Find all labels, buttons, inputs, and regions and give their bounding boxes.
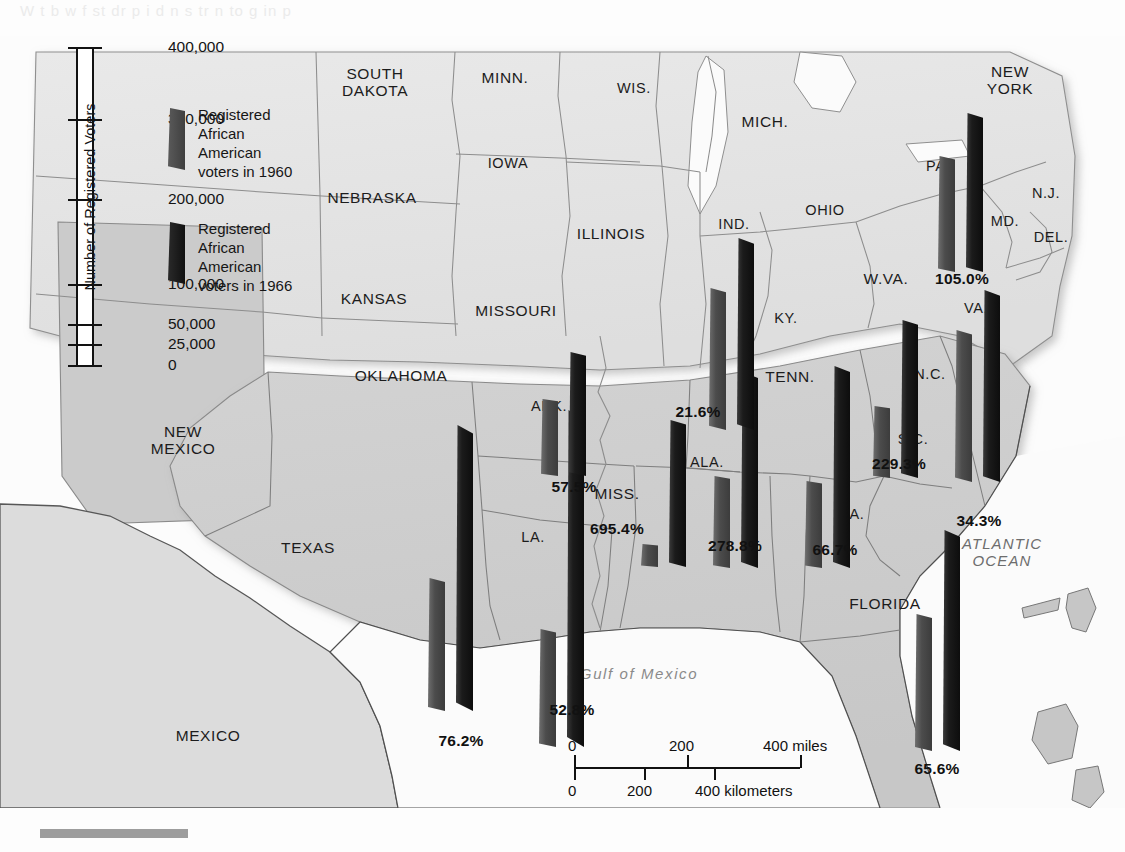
map-label-minn: MINN. [482, 69, 529, 86]
percent-label-miss: 695.4% [590, 520, 644, 537]
axis-tick-label-6: 0 [168, 356, 177, 374]
bar-fill [833, 366, 850, 568]
bar-miss-1966 [669, 420, 686, 567]
bar-ark-1960 [541, 399, 558, 476]
bar-texas-1960 [428, 578, 445, 711]
axis-tick-100000 [68, 284, 102, 286]
percent-label-texas: 76.2% [439, 732, 484, 749]
bar-fill [938, 156, 955, 272]
bar-miss-1960 [641, 544, 658, 567]
bar-fill [428, 578, 445, 711]
scale-tick-km-400 [714, 767, 716, 780]
bar-fill [669, 420, 686, 567]
bar-texas-1966 [456, 425, 473, 711]
map-label-oklahoma: OKLAHOMA [355, 367, 448, 384]
scale-tick-miles-200 [687, 755, 689, 768]
axis-tick-0 [68, 365, 102, 367]
axis-title: Number of Registered Voters [82, 104, 98, 291]
map-label-kansas: KANSAS [341, 290, 408, 307]
axis-tick-300000 [68, 119, 102, 121]
map-label-ind: IND. [718, 216, 749, 232]
bar-fill [943, 530, 960, 751]
map-label-nebraska: NEBRASKA [327, 189, 416, 206]
scale-label-miles-200: 200 [669, 737, 694, 754]
map-label-md: MD. [991, 213, 1019, 229]
scale-tick-km-0 [574, 767, 576, 780]
map-label-ky: KY. [774, 310, 797, 326]
axis-tick-label-5: 25,000 [168, 335, 215, 353]
bar-fill [737, 238, 754, 430]
percent-label-nc: 34.3% [957, 512, 1002, 529]
map-label-ala: ALA. [690, 454, 724, 470]
bar-fill [966, 113, 983, 272]
map-figure: W t b w f st dr p i d n s tr n to g in p [0, 0, 1125, 852]
voter-scale-axis: Number of Registered Voters 400,000300,0… [62, 47, 106, 367]
map-label-new-york: NEW YORK [987, 63, 1033, 98]
map-label-w-va: W.VA. [864, 270, 909, 287]
footer-rule [40, 829, 188, 838]
map-label-del: DEL. [1034, 229, 1069, 245]
scale-label-km-200: 200 [627, 782, 652, 799]
bar-florida-1960 [915, 614, 932, 751]
map-label-la: LA. [521, 529, 545, 545]
percent-label-florida: 65.6% [915, 760, 960, 777]
bar-fill [915, 614, 932, 751]
scale-tick-km-200 [644, 767, 646, 780]
bar-sc-1966 [901, 320, 918, 478]
percent-label-va: 105.0% [935, 270, 989, 287]
legend-swatch-1960 [168, 108, 185, 170]
bar-fill [901, 320, 918, 478]
bar-fill [456, 425, 473, 711]
axis-tick-50000 [68, 324, 102, 326]
percent-label-tenn: 21.6% [676, 403, 721, 420]
map-label-n-j: N.J. [1032, 185, 1060, 201]
bar-la-1960 [539, 629, 556, 747]
map-label-gulf-of-mexico: Gulf of Mexico [580, 666, 698, 683]
axis-tick-label-4: 50,000 [168, 315, 215, 333]
scale-label-km-400: 400 kilometers [695, 782, 793, 799]
bar-va-1966 [966, 113, 983, 272]
bar-fill [641, 544, 658, 567]
axis-tick-label-2: 200,000 [168, 190, 224, 208]
bar-fill [539, 629, 556, 747]
scale-label-km-0: 0 [568, 782, 576, 799]
percent-label-sc: 229.3% [872, 455, 926, 472]
bar-fill [569, 352, 586, 476]
map-label-new-mexico: NEW MEXICO [151, 423, 216, 458]
map-label-iowa: IOWA [488, 155, 529, 171]
map-label-wis: WIS. [617, 80, 651, 96]
map-label-texas: TEXAS [281, 539, 335, 556]
bar-ga-1966 [833, 366, 850, 568]
percent-label-ala: 278.8% [708, 537, 762, 554]
bar-fill [983, 290, 1000, 482]
bar-ark-1966 [569, 352, 586, 476]
map-label-mexico: MEXICO [176, 727, 241, 744]
bar-fill [541, 399, 558, 476]
scale-tick-miles-400 [800, 755, 802, 768]
bar-florida-1966 [943, 530, 960, 751]
bar-nc-1960 [955, 330, 972, 482]
scale-bar: 0 200 400 miles 0 200 400 kilometers [566, 741, 824, 803]
map-label-tenn: TENN. [765, 368, 815, 385]
map-label-miss: MISS. [594, 485, 639, 502]
map-label-ohio: OHIO [805, 202, 844, 218]
legend-label-1960: Registered African American voters in 19… [198, 105, 292, 181]
percent-label-la: 52.8% [550, 701, 595, 718]
map-label-mich: MICH. [742, 113, 789, 130]
map-label-missouri: MISSOURI [475, 302, 556, 319]
bleed-through-ghost-text: W t b w f st dr p i d n s tr n to g in p [0, 2, 1125, 36]
legend-swatch-1966 [168, 222, 185, 284]
map-label-illinois: ILLINOIS [577, 225, 646, 242]
percent-label-ark: 57.5% [552, 478, 597, 495]
percent-label-ga: 66.7% [813, 541, 858, 558]
bar-tenn-1966 [737, 238, 754, 430]
axis-tick-400000 [68, 47, 102, 49]
bar-nc-1966 [983, 290, 1000, 482]
bar-fill [955, 330, 972, 482]
axis-tick-label-0: 400,000 [168, 38, 224, 56]
map-label-atlantic-ocean: ATLANTIC OCEAN [962, 536, 1042, 570]
legend-label-1966: Registered African American voters in 19… [198, 219, 292, 295]
map-label-n-c: N.C. [914, 366, 945, 382]
axis-tick-25000 [68, 344, 102, 346]
axis-tick-200000 [68, 199, 102, 201]
